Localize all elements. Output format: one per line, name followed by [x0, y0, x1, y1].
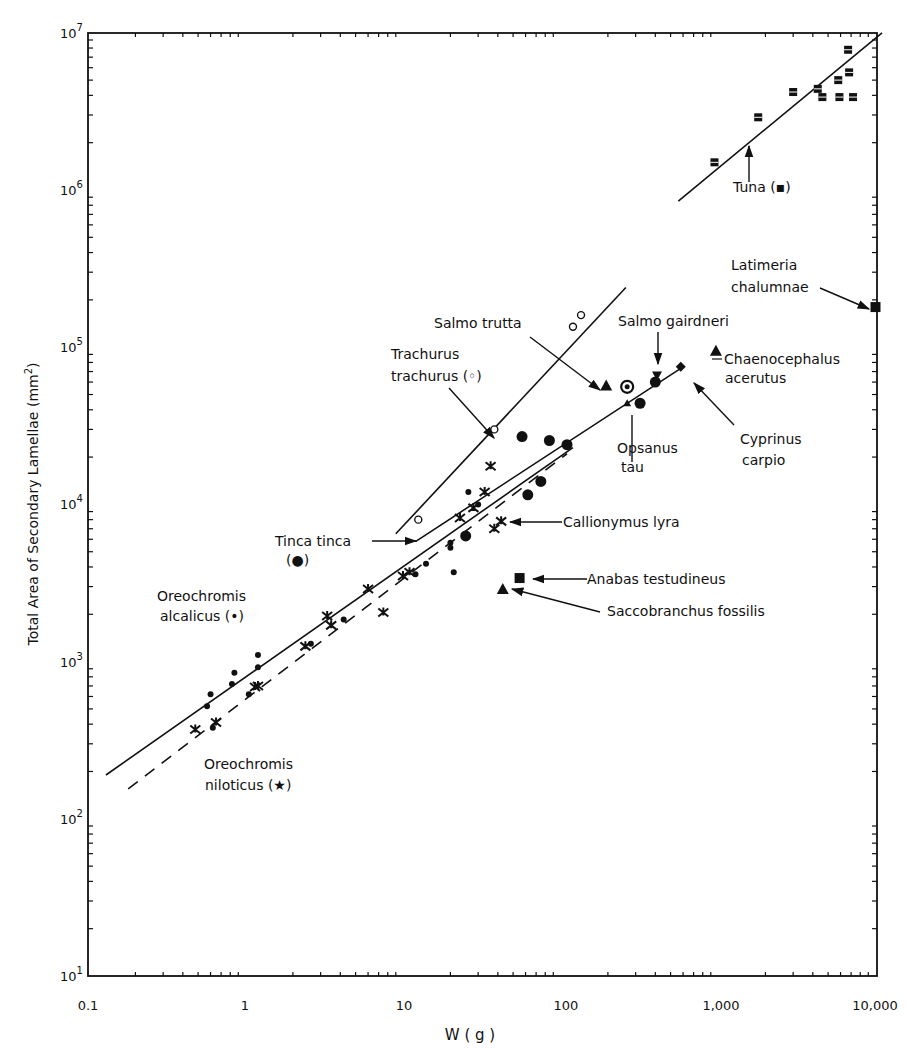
data-point: [451, 569, 457, 575]
data-point: [415, 516, 422, 523]
annotation-latimeria: Latimeria: [731, 257, 797, 273]
regression-lines: [106, 33, 882, 789]
data-points: [190, 46, 880, 734]
data-point: [849, 93, 857, 101]
y-tick-label: 105: [60, 336, 83, 355]
annotation-latimeria: chalumnae: [731, 279, 809, 295]
data-point: [710, 158, 718, 166]
y-tick-label: 107: [60, 22, 83, 41]
data-point: [871, 302, 881, 312]
data-point: [650, 377, 661, 388]
x-tick-label: 10: [396, 998, 413, 1013]
annotation-oreochromis-alcalicus: Oreochromis: [157, 588, 246, 604]
y-axis-title: Total Area of Secondary Lamellae (mm2): [23, 363, 41, 647]
x-axis-title: W ( g ): [445, 1026, 495, 1044]
data-point: [814, 85, 822, 93]
data-point: [460, 530, 471, 541]
annotation-salmo-trutta: Salmo trutta: [434, 315, 522, 331]
x-tick-label: 1,000: [702, 998, 739, 1013]
scatter-chart: 0.1 1 10 100 1,000 10,000 W ( g ) 101 10…: [0, 0, 908, 1057]
x-tick-label: 0.1: [78, 998, 99, 1013]
annotation-oreochromis-niloticus: niloticus (★): [205, 777, 291, 793]
data-point: [468, 503, 478, 512]
data-point: [844, 46, 852, 54]
annotation-tinca: (●): [286, 552, 309, 568]
y-tick-label: 101: [60, 965, 83, 984]
data-point: [231, 670, 237, 676]
data-point: [789, 88, 797, 96]
annotations: Tuna (▪) Latimeria chalumnae Salmo trutt…: [157, 146, 869, 793]
data-point: [818, 93, 826, 101]
annotation-chaenocephalus: Chaenocephalus: [724, 351, 840, 367]
data-point: [486, 461, 496, 470]
data-point: [190, 724, 200, 733]
data-point: [322, 611, 332, 620]
y-tick-label: 103: [60, 651, 83, 670]
data-point: [754, 113, 762, 121]
data-point: [834, 76, 842, 84]
data-point: [496, 516, 506, 525]
annotation-tinca: Tinca tinca: [274, 533, 351, 549]
x-tick-label: 1: [241, 998, 249, 1013]
data-point: [208, 691, 214, 697]
data-point: [535, 476, 546, 487]
annotation-cyprinus: Cyprinus: [740, 431, 802, 447]
data-point: [845, 68, 853, 76]
annotation-cyprinus: carpio: [742, 452, 785, 468]
data-point: [562, 439, 573, 450]
data-point: [423, 561, 429, 567]
annotation-saccobranchus: Saccobranchus fossilis: [607, 603, 765, 619]
y-tick-label: 104: [60, 493, 83, 512]
annotation-chaenocephalus: acerutus: [725, 370, 786, 386]
data-point: [517, 431, 528, 442]
plot-area: [88, 33, 877, 976]
annotation-opsanus: Opsanus: [617, 440, 678, 456]
y-tick-label: 102: [60, 808, 83, 827]
annotation-trachurus: Trachurus: [390, 346, 459, 362]
data-point: [623, 399, 631, 406]
data-point: [569, 323, 576, 330]
data-point: [229, 681, 235, 687]
regression-line: [678, 33, 882, 201]
data-point: [378, 608, 388, 617]
annotation-callionymus: Callionymus lyra: [563, 514, 680, 530]
data-point: [544, 435, 555, 446]
annotation-tuna: Tuna (▪): [732, 179, 791, 195]
data-point: [341, 617, 347, 623]
data-point: [326, 620, 336, 629]
annotation-oreochromis-alcalicus: alcalicus (•): [160, 608, 244, 624]
x-tick-label: 10,000: [852, 998, 898, 1013]
data-point: [621, 381, 633, 393]
data-point: [447, 545, 453, 551]
data-point: [497, 583, 509, 594]
data-point: [204, 703, 210, 709]
data-point: [491, 426, 498, 433]
data-point: [465, 489, 471, 495]
annotation-anabas: Anabas testudineus: [587, 571, 725, 587]
data-point: [835, 93, 843, 101]
y-tick-label: 106: [60, 179, 83, 198]
data-point: [522, 489, 533, 500]
annotation-opsanus: tau: [621, 459, 644, 475]
annotation-salmo-gairdneri: Salmo gairdneri: [618, 313, 729, 329]
data-point: [710, 345, 722, 356]
annotation-trachurus: trachurus (◦): [391, 368, 482, 384]
y-axis-tick-labels: 101 102 103 104 105 106 107: [60, 22, 83, 984]
data-point: [255, 664, 261, 670]
data-point: [578, 312, 585, 319]
x-axis-tick-labels: 0.1 1 10 100 1,000 10,000: [78, 998, 898, 1013]
data-point: [600, 380, 612, 391]
annotation-oreochromis-niloticus: Oreochromis: [204, 756, 293, 772]
data-point: [246, 691, 252, 697]
data-point: [480, 487, 490, 496]
data-point: [211, 717, 221, 726]
y-axis-ticks: [88, 40, 877, 929]
data-point: [635, 398, 646, 409]
data-point: [455, 513, 465, 522]
x-tick-label: 100: [554, 998, 579, 1013]
data-point: [515, 573, 525, 583]
data-point: [255, 652, 261, 658]
